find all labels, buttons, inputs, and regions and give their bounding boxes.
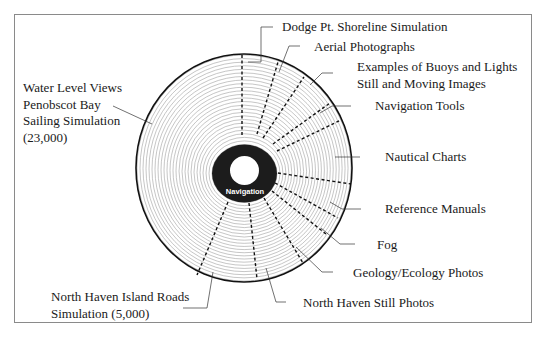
hub-hole	[230, 156, 259, 185]
label-reference-manuals[interactable]: Reference Manuals	[385, 201, 486, 216]
hub-label: Navigation	[226, 187, 265, 196]
label-aerial-photographs[interactable]: Aerial Photographs	[314, 39, 415, 54]
label-fog[interactable]: Fog	[377, 237, 398, 252]
label-nautical-charts[interactable]: Nautical Charts	[385, 149, 466, 164]
label-dodge-pt[interactable]: Dodge Pt. Shoreline Simulation	[282, 19, 448, 34]
label-buoys-lights[interactable]: Examples of Buoys and LightsStill and Mo…	[357, 59, 517, 91]
label-north-haven-roads[interactable]: North Haven Island RoadsSimulation (5,00…	[51, 289, 189, 321]
diagram-canvas: Navigation Dodge Pt. Shoreline Simulatio…	[0, 0, 545, 339]
label-north-haven-still[interactable]: North Haven Still Photos	[303, 295, 434, 310]
label-navigation-tools[interactable]: Navigation Tools	[375, 98, 464, 113]
label-water-level-views[interactable]: Water Level ViewsPenobscot BaySailing Si…	[23, 80, 122, 145]
label-geology-ecology[interactable]: Geology/Ecology Photos	[353, 265, 483, 280]
